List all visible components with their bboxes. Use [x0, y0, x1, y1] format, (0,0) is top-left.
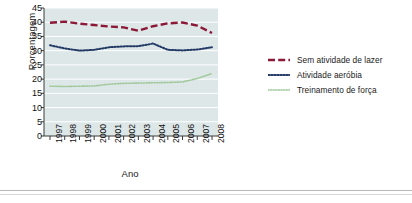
legend-item[interactable]: Atividade aeróbia [268, 67, 412, 82]
x-tick-label: 2007 [201, 124, 211, 143]
page-divider [0, 190, 412, 191]
legend-label: Sem atividade de lazer [297, 55, 383, 65]
chart-figure: Porcentagem 051015202530354045 199719981… [0, 0, 412, 203]
legend-marker-icon [268, 70, 290, 80]
x-tick-label: 2002 [127, 124, 137, 143]
legend-item[interactable]: Treinamento de força [268, 82, 412, 97]
x-tick-label: 2005 [171, 124, 181, 143]
x-tick-label: 1997 [54, 124, 64, 143]
x-tick-label: 2001 [113, 124, 123, 143]
chart-legend: Sem atividade de lazerAtividade aeróbiaT… [268, 52, 412, 97]
legend-marker-icon [268, 55, 290, 65]
page-divider-secondary [0, 194, 412, 195]
legend-item[interactable]: Sem atividade de lazer [268, 52, 412, 67]
x-tick-label: 2000 [98, 124, 108, 143]
legend-label: Atividade aeróbia [297, 70, 362, 80]
x-tick-label: 1999 [83, 124, 93, 143]
x-tick-label: 2008 [216, 124, 226, 143]
x-tick-label: 2004 [157, 124, 167, 143]
x-tick-label: 2006 [186, 124, 196, 143]
legend-label: Treinamento de força [297, 85, 377, 95]
x-tick-label: 1998 [68, 124, 78, 143]
legend-marker-icon [268, 85, 290, 95]
x-axis-title: Ano [38, 168, 222, 179]
x-tick-label: 2003 [142, 124, 152, 143]
